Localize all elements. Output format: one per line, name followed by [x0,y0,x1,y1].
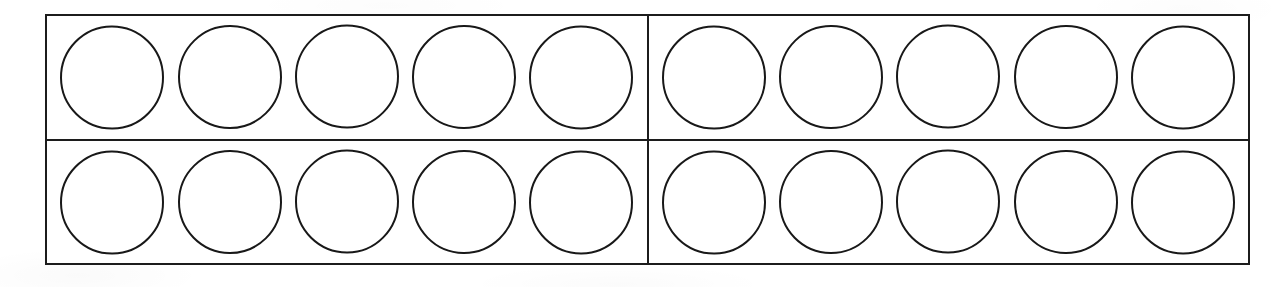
counter-circle-icon[interactable] [411,25,516,130]
ten-frame-cell-17[interactable] [779,150,883,254]
double-ten-frame [45,14,1250,265]
ten-frame-cell-16[interactable] [662,150,766,254]
ten-frame-cell-12[interactable] [178,150,282,254]
ten-frame-cell-10[interactable] [1131,25,1235,129]
ten-frame-cell-20[interactable] [1131,150,1235,254]
ten-frame-cell-4[interactable] [412,25,516,129]
counter-circle-icon[interactable] [529,25,634,130]
ten-frame-cell-15[interactable] [529,150,633,254]
counter-circle-icon[interactable] [60,150,165,255]
counter-circle-icon[interactable] [177,149,282,254]
ten-frame-cell-7[interactable] [779,25,883,129]
ten-frame-row-1 [47,16,1248,139]
ten-frame-row-2 [47,139,1248,264]
counter-circle-icon[interactable] [529,150,634,255]
counter-circle-icon[interactable] [896,24,1001,129]
counter-circle-icon[interactable] [661,150,766,255]
worksheet-canvas [0,0,1287,287]
counter-circle-icon[interactable] [661,25,766,130]
ten-frame-group-1 [47,16,647,139]
counter-circle-icon[interactable] [1130,25,1235,130]
ten-frame-group-2 [647,16,1249,139]
counter-circle-icon[interactable] [60,25,165,130]
ten-frame-cell-13[interactable] [295,150,399,254]
counter-circle-icon[interactable] [294,24,399,129]
ten-frame-cell-18[interactable] [896,150,1000,254]
counter-circle-icon[interactable] [1130,150,1235,255]
ten-frame-cell-5[interactable] [529,25,633,129]
ten-frame-cell-11[interactable] [60,150,164,254]
ten-frame-cell-19[interactable] [1014,150,1118,254]
counter-circle-icon[interactable] [896,149,1001,254]
ten-frame-cell-3[interactable] [295,25,399,129]
ten-frame-group-4 [647,141,1249,264]
counter-circle-icon[interactable] [294,149,399,254]
ten-frame-group-3 [47,141,647,264]
counter-circle-icon[interactable] [177,25,282,130]
ten-frame-cell-1[interactable] [60,25,164,129]
ten-frame-cell-2[interactable] [178,25,282,129]
counter-circle-icon[interactable] [1013,25,1118,130]
ten-frame-cell-14[interactable] [412,150,516,254]
ten-frame-cell-9[interactable] [1014,25,1118,129]
ten-frame-cell-8[interactable] [896,25,1000,129]
counter-circle-icon[interactable] [779,149,884,254]
counter-circle-icon[interactable] [779,25,884,130]
ten-frame-cell-6[interactable] [662,25,766,129]
counter-circle-icon[interactable] [1013,149,1118,254]
counter-circle-icon[interactable] [411,149,516,254]
